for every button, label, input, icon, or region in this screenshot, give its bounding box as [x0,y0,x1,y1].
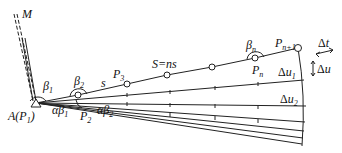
label-beta2: β2 [74,75,84,90]
label-alpha-beta2: αβ2 [97,104,113,119]
label-delta-t: Δt [318,37,329,49]
label-a-p1: A(P1) [8,110,35,125]
station-p2 [75,92,81,98]
label-betan: βn [246,39,256,54]
label-p2: P2 [80,110,91,125]
label-pn: Pn [252,64,263,79]
label-s-ns: S=ns [152,58,177,70]
label-alpha-beta1: αβ1 [52,104,68,119]
traverse-diagram: M β1 β2 s P3 S=ns βn Pn Pn+1 Δt Δu Δu1 Δ… [0,0,342,153]
label-s: s [101,77,106,89]
error-arc [298,48,303,146]
station-s [164,72,170,78]
station-mid [209,64,215,70]
station-pn [252,55,258,61]
label-delta-u2: Δu2 [280,93,298,108]
label-m: M [22,8,32,20]
station-p3 [124,81,130,87]
label-beta1: β1 [43,80,53,95]
label-delta-u1: Δu1 [278,66,296,81]
label-delta-u: Δu [317,63,331,75]
reference-line-m [14,14,36,101]
label-pn1: Pn+1 [275,37,296,52]
label-p3: P3 [113,68,124,83]
